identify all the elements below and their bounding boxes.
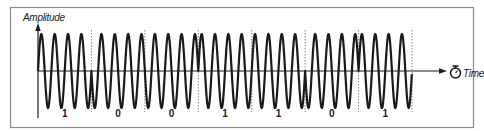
psk-diagram: Amplitude Time 1001101 xyxy=(0,0,484,131)
bit-label: 0 xyxy=(169,108,175,119)
y-axis-label: Amplitude xyxy=(22,12,66,23)
bit-label: 0 xyxy=(115,108,121,119)
x-axis-label: Time xyxy=(463,68,484,79)
bit-label: 1 xyxy=(62,108,68,119)
bit-label: 1 xyxy=(276,108,282,119)
bit-label: 1 xyxy=(222,108,228,119)
bit-label: 0 xyxy=(329,108,335,119)
bit-label: 1 xyxy=(383,108,389,119)
